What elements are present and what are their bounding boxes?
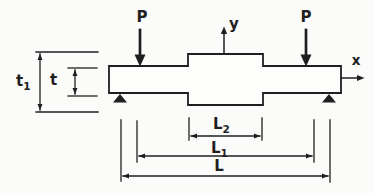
x-axis-label: x (352, 52, 361, 68)
stepped-beam-diagram: P P y x t1 t L2 L1 L (0, 0, 375, 193)
load-label-left: P (137, 8, 148, 26)
L-dimension-label: L (214, 157, 224, 175)
y-axis-label: y (229, 15, 239, 33)
load-label-right: P (301, 8, 312, 26)
t-dimension-label: t (50, 71, 57, 89)
